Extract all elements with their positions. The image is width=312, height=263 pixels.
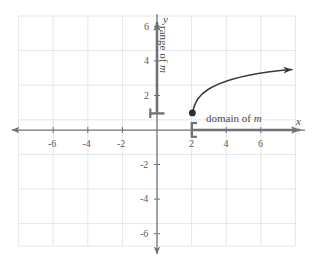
x-axis-name: x xyxy=(296,116,301,127)
x-tick-label--2: -2 xyxy=(117,139,125,149)
y-tick-label--2: -2 xyxy=(140,160,148,170)
graph-figure: -6 -4 -2 2 4 6 6 4 2 -2 -4 -6 y x domain… xyxy=(0,0,312,263)
y-tick-label--4: -4 xyxy=(140,194,148,204)
x-tick-label--6: -6 xyxy=(48,139,56,149)
curve-endpoint-dot xyxy=(189,110,196,117)
domain-annotation: domain of m xyxy=(206,113,262,124)
range-annotation-prefix: range of xyxy=(158,26,170,65)
y-tick-label--6: -6 xyxy=(140,229,148,239)
y-tick-label-2: 2 xyxy=(144,91,149,101)
x-tick-label--4: -4 xyxy=(83,139,91,149)
range-annotation: range of m xyxy=(158,26,169,73)
y-tick-label-4: 4 xyxy=(144,56,149,66)
y-tick-label-6: 6 xyxy=(144,22,149,32)
range-annotation-variable: m xyxy=(158,65,170,73)
x-tick-label-6: 6 xyxy=(258,139,263,149)
x-tick-label-2: 2 xyxy=(189,139,194,149)
coordinate-plane xyxy=(0,0,312,263)
y-axis-name: y xyxy=(163,14,168,25)
x-tick-label-4: 4 xyxy=(224,139,229,149)
domain-annotation-variable: m xyxy=(254,112,262,124)
domain-annotation-prefix: domain of xyxy=(206,112,254,124)
